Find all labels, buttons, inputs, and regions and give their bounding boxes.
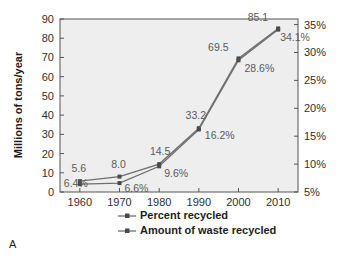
- legend-marker-icon: [125, 214, 130, 219]
- y-tick-label: 30: [42, 128, 54, 140]
- data-point-label: 14.5: [150, 145, 171, 157]
- legend-marker-icon: [125, 229, 130, 234]
- secondary-y-tick-label: 10%: [304, 158, 326, 170]
- x-tick-label: 2010: [266, 196, 290, 208]
- x-tick-label: 2000: [226, 196, 250, 208]
- data-point-label: 8.0: [111, 158, 126, 170]
- x-tick-label: 1960: [68, 196, 92, 208]
- y-tick-label: 0: [48, 186, 54, 198]
- plot-area-background: [60, 19, 298, 192]
- secondary-y-tick-label: 20%: [304, 102, 326, 114]
- y-tick-label: 20: [42, 148, 54, 160]
- figure-panel: Millions of tons/year 010203040506070809…: [0, 0, 362, 257]
- y-tick-label: 60: [42, 71, 54, 83]
- y-tick-label: 10: [42, 167, 54, 179]
- data-point-label: 69.5: [208, 41, 229, 53]
- legend-label: Amount of waste recycled: [140, 224, 276, 236]
- secondary-y-tick-label: 25%: [304, 74, 326, 86]
- secondary-y-tick-label: 15%: [304, 130, 326, 142]
- y-tick-label: 50: [42, 90, 54, 102]
- series-marker: [118, 175, 122, 179]
- legend-label: Percent recycled: [140, 209, 228, 221]
- chart-legend: Percent recycledAmount of waste recycled: [118, 209, 276, 236]
- data-point-label: 34.1%: [280, 31, 310, 43]
- data-point-label: 85.1: [248, 11, 269, 23]
- recycling-line-chart: Millions of tons/year 010203040506070809…: [0, 0, 362, 257]
- x-tick-label: 1970: [107, 196, 131, 208]
- secondary-y-tick-label: 5%: [304, 186, 320, 198]
- secondary-y-tick-label: 30%: [304, 46, 326, 58]
- y-tick-label: 70: [42, 51, 54, 63]
- data-point-label: 6.4%: [64, 177, 88, 189]
- x-tick-label: 1990: [187, 196, 211, 208]
- y-tick-label: 40: [42, 109, 54, 121]
- data-point-label: 33.2: [186, 109, 207, 121]
- data-point-label: 9.6%: [164, 167, 188, 179]
- secondary-y-tick-label: 35%: [304, 19, 326, 31]
- series-marker: [118, 181, 122, 185]
- series-marker: [157, 164, 161, 168]
- data-point-label: 16.2%: [205, 129, 235, 141]
- data-point-label: 5.6: [72, 162, 87, 174]
- y-tick-label: 90: [42, 13, 54, 25]
- series-marker: [197, 127, 201, 131]
- data-point-label: 6.6%: [125, 182, 149, 194]
- y-tick-label: 80: [42, 32, 54, 44]
- x-tick-label: 1980: [147, 196, 171, 208]
- panel-letter: A: [9, 238, 17, 250]
- y-axis-title: Millions of tons/year: [12, 51, 24, 158]
- secondary-y-axis-ticks: 5%10%15%20%25%30%35%: [294, 19, 326, 198]
- series-marker: [237, 58, 241, 62]
- data-point-label: 28.6%: [245, 62, 275, 74]
